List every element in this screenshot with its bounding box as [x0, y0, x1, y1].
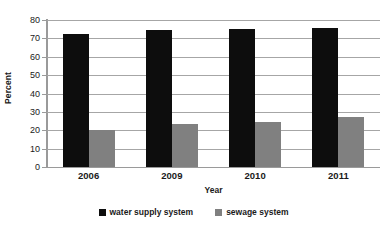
legend-item-sewage-system[interactable]: sewage system — [215, 207, 288, 217]
bar-group — [297, 20, 380, 167]
y-axis-tick-label: 40 — [18, 89, 40, 99]
y-axis-tick-mark — [42, 38, 46, 39]
y-axis-tick-mark — [42, 130, 46, 131]
x-axis-tick-label: 2006 — [47, 170, 130, 181]
bar-group — [130, 20, 213, 167]
y-axis-tick-mark — [42, 94, 46, 95]
legend-label: sewage system — [226, 207, 288, 217]
gridline — [47, 167, 380, 168]
bar-2009-water-supply-system — [146, 30, 172, 167]
x-axis-tick-label: 2009 — [130, 170, 213, 181]
bar-2011-water-supply-system — [312, 28, 338, 167]
bar-2006-water-supply-system — [63, 34, 89, 167]
y-axis-tick-mark — [42, 112, 46, 113]
y-axis-tick-mark — [42, 75, 46, 76]
y-axis-tick-label: 20 — [18, 125, 40, 135]
bar-2009-sewage-system — [172, 124, 198, 167]
y-axis-tick-label: 50 — [18, 70, 40, 80]
legend-swatch-icon — [215, 209, 222, 216]
bar-group — [47, 20, 130, 167]
bar-2006-sewage-system — [89, 130, 115, 167]
plot-area — [47, 20, 380, 167]
bar-group — [214, 20, 297, 167]
x-axis-tick-labels: 2006200920102011 — [47, 170, 380, 184]
x-axis-tick-label: 2011 — [297, 170, 380, 181]
y-axis-tick-label: 60 — [18, 52, 40, 62]
bar-2010-water-supply-system — [229, 29, 255, 167]
y-axis-tick-label: 30 — [18, 107, 40, 117]
y-axis-tick-mark — [42, 20, 46, 21]
y-axis-tick-label: 80 — [18, 15, 40, 25]
bar-2011-sewage-system — [338, 117, 364, 168]
y-axis-tick-mark — [42, 149, 46, 150]
y-axis-tick-labels: 01020304050607080 — [14, 20, 40, 167]
legend-swatch-icon — [99, 209, 106, 216]
legend-label: water supply system — [110, 207, 194, 217]
legend-item-water-supply-system[interactable]: water supply system — [99, 207, 194, 217]
y-axis-tick-label: 10 — [18, 144, 40, 154]
y-axis-tick-mark — [42, 57, 46, 58]
bar-2010-sewage-system — [255, 122, 281, 167]
x-axis-title: Year — [47, 185, 380, 195]
bar-chart: Percent 01020304050607080 20062009201020… — [0, 0, 387, 233]
y-axis-tick-mark — [42, 167, 46, 168]
y-axis-tick-label: 0 — [18, 162, 40, 172]
y-axis-tick-label: 70 — [18, 33, 40, 43]
legend: water supply systemsewage system — [0, 207, 387, 217]
y-axis-title-label: Percent — [3, 72, 13, 104]
x-axis-tick-label: 2010 — [214, 170, 297, 181]
